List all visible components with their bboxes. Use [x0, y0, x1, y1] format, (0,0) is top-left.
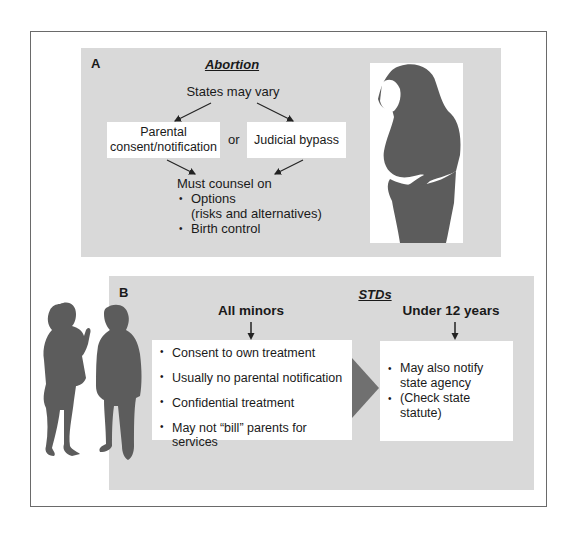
counsel-item-text: Birth control — [191, 221, 322, 236]
under-12-item: (Check state statute) — [388, 391, 513, 421]
all-minors-item: Confidential treatment — [160, 396, 352, 421]
judicial-bypass-box: Judicial bypass — [247, 122, 346, 158]
counsel-item-text: Options — [191, 191, 322, 206]
all-minors-item: May not “bill” parents for services — [160, 421, 352, 446]
counsel-list: Options (risks and alternatives) Birth c… — [179, 191, 322, 236]
all-minors-item: Usually no parental notification — [160, 371, 352, 396]
couple-talking-silhouette-icon — [38, 300, 148, 462]
counsel-item: Options (risks and alternatives) — [179, 191, 322, 221]
all-minors-item: Consent to own treatment — [160, 346, 352, 371]
counsel-item: Birth control — [179, 221, 322, 236]
counsel-item-subtext: (risks and alternatives) — [191, 206, 322, 221]
under-12-list: May also notify state agency (Check stat… — [388, 361, 513, 421]
pregnant-woman-image — [370, 63, 463, 243]
panel-a-abortion: A Abortion States may vary Parental cons… — [81, 48, 501, 257]
under-12-box: May also notify state agency (Check stat… — [380, 341, 513, 441]
pregnant-woman-silhouette-icon — [370, 63, 463, 243]
consent-notification-label: consent/notification — [107, 140, 220, 155]
flow-triangle — [352, 358, 379, 418]
all-minors-box: Consent to own treatment Usually no pare… — [152, 340, 352, 440]
parental-label: Parental — [107, 125, 220, 140]
counsel-section: Must counsel on Options (risks and alter… — [177, 176, 322, 236]
counsel-heading: Must counsel on — [177, 176, 322, 191]
under-12-item: May also notify state agency — [388, 361, 513, 391]
under-12-item-text: (Check state statute) — [400, 391, 513, 421]
or-connector: or — [228, 132, 240, 147]
parental-consent-box: Parental consent/notification — [107, 122, 220, 158]
all-minors-list: Consent to own treatment Usually no pare… — [160, 346, 352, 446]
under-12-item-subtext: state agency — [400, 376, 513, 391]
under-12-item-text: May also notify — [400, 361, 513, 376]
panel-b-stds: B STDs All minors Under 12 years Consent… — [109, 276, 534, 490]
